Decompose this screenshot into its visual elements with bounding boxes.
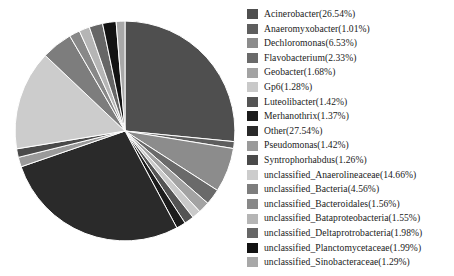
pie-chart-svg — [14, 12, 236, 250]
legend-swatch-icon — [247, 199, 258, 209]
legend-swatch-icon — [247, 53, 258, 63]
legend-item-label: Geobacter(1.68%) — [264, 65, 335, 80]
legend-item-unclassified-planctomycetaceae[interactable]: unclassified_Planctomycetaceae(1.99%) — [247, 241, 421, 256]
legend-item-unclassified-sinobacteraceae[interactable]: unclassified_Sinobacteraceae(1.29%) — [247, 255, 410, 270]
legend-item-label: unclassified_Bacteria(4.56%) — [264, 182, 379, 197]
pie-plot-area — [0, 0, 246, 276]
legend-item-flavobacterium[interactable]: Flavobacterium(2.33%) — [247, 51, 356, 66]
legend-swatch-icon — [247, 243, 258, 253]
legend-item-label: unclassified_Deltaprotrobacteria(1.98%) — [264, 226, 422, 241]
legend-swatch-icon — [247, 155, 258, 165]
pie-slice-acinerobacter[interactable] — [125, 21, 235, 142]
legend-item-unclassified-anaerolineaceae[interactable]: unclassified_Anaerolineaceae(14.66%) — [247, 168, 416, 183]
legend-item-label: Syntrophorhabdus(1.26%) — [264, 153, 367, 168]
legend-swatch-icon — [247, 141, 258, 151]
legend-item-unclassified-bacteroidales[interactable]: unclassified_Bacteroidales(1.56%) — [247, 197, 400, 212]
legend-swatch-icon — [247, 170, 258, 180]
legend-swatch-icon — [247, 97, 258, 107]
legend-item-label: Other(27.54%) — [264, 124, 322, 139]
legend-item-syntrophorhabdus[interactable]: Syntrophorhabdus(1.26%) — [247, 153, 367, 168]
chart-legend: Acinerobacter(26.54%)Anaeromyxobacter(1.… — [247, 7, 454, 271]
legend-item-gp6[interactable]: Gp6(1.28%) — [247, 80, 312, 95]
legend-swatch-icon — [247, 111, 258, 121]
legend-swatch-icon — [247, 126, 258, 136]
legend-item-other[interactable]: Other(27.54%) — [247, 124, 322, 139]
legend-swatch-icon — [247, 257, 258, 267]
legend-item-label: Acinerobacter(26.54%) — [264, 7, 355, 22]
legend-item-label: Gp6(1.28%) — [264, 80, 312, 95]
legend-item-acinerobacter[interactable]: Acinerobacter(26.54%) — [247, 7, 355, 22]
legend-item-label: Luteolibacter(1.42%) — [264, 95, 347, 110]
legend-swatch-icon — [247, 82, 258, 92]
legend-item-label: Anaeromyxobacter(1.01%) — [264, 22, 370, 37]
pie-chart-figure: Acinerobacter(26.54%)Anaeromyxobacter(1.… — [0, 0, 454, 276]
legend-item-label: Merhanothrix(1.37%) — [264, 109, 349, 124]
legend-item-label: unclassified_Bacteroidales(1.56%) — [264, 197, 400, 212]
pie-slice-group — [15, 21, 235, 241]
legend-item-luteolibacter[interactable]: Luteolibacter(1.42%) — [247, 95, 347, 110]
legend-swatch-icon — [247, 38, 258, 48]
legend-swatch-icon — [247, 24, 258, 34]
legend-swatch-icon — [247, 9, 258, 19]
legend-item-label: unclassified_Sinobacteraceae(1.29%) — [264, 255, 410, 270]
legend-item-label: unclassified_Anaerolineaceae(14.66%) — [264, 168, 416, 183]
legend-item-unclassified-bataproteobacteria[interactable]: unclassified_Bataproteobacteria(1.55%) — [247, 211, 420, 226]
legend-item-dechloromonas[interactable]: Dechloromonas(6.53%) — [247, 36, 357, 51]
legend-item-merhanothrix[interactable]: Merhanothrix(1.37%) — [247, 109, 349, 124]
legend-item-label: Pseudomonas(1.42%) — [264, 138, 349, 153]
legend-item-pseudomonas[interactable]: Pseudomonas(1.42%) — [247, 138, 349, 153]
legend-swatch-icon — [247, 228, 258, 238]
legend-swatch-icon — [247, 214, 258, 224]
legend-item-label: unclassified_Planctomycetaceae(1.99%) — [264, 241, 421, 256]
legend-item-unclassified-bacteria[interactable]: unclassified_Bacteria(4.56%) — [247, 182, 379, 197]
legend-item-anaeromyxobacter[interactable]: Anaeromyxobacter(1.01%) — [247, 22, 370, 37]
legend-item-label: unclassified_Bataproteobacteria(1.55%) — [264, 211, 420, 226]
legend-item-unclassified-deltaprotrobacteria[interactable]: unclassified_Deltaprotrobacteria(1.98%) — [247, 226, 422, 241]
legend-item-geobacter[interactable]: Geobacter(1.68%) — [247, 65, 335, 80]
legend-item-label: Flavobacterium(2.33%) — [264, 51, 356, 66]
legend-swatch-icon — [247, 68, 258, 78]
legend-swatch-icon — [247, 184, 258, 194]
legend-item-label: Dechloromonas(6.53%) — [264, 36, 357, 51]
